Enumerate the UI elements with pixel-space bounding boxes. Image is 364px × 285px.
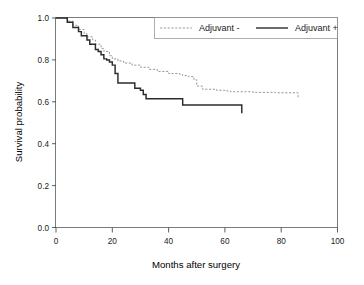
x-tick-label: 60 — [220, 237, 230, 246]
x-tick-label: 20 — [108, 237, 118, 246]
y-axis-title: Survival probability — [13, 82, 24, 163]
survival-chart-figure: Adjuvant - Adjuvant + 0.00.20.40.60.81.0… — [0, 0, 364, 285]
legend-label-adjuvant-positive: Adjuvant + — [295, 23, 338, 33]
y-tick-label: 1.0 — [38, 14, 50, 23]
y-tick-label: 0.0 — [38, 224, 50, 233]
y-tick-label: 0.2 — [38, 182, 50, 191]
x-tick-label: 100 — [331, 237, 345, 246]
x-tick-label: 0 — [54, 237, 59, 246]
x-tick-label: 80 — [277, 237, 287, 246]
y-tick-label: 0.8 — [38, 56, 50, 65]
x-axis-title: Months after surgery — [152, 259, 240, 270]
x-tick-label: 40 — [164, 237, 174, 246]
kaplan-meier-plot: Adjuvant - Adjuvant + 0.00.20.40.60.81.0… — [0, 0, 364, 285]
legend-label-adjuvant-negative: Adjuvant - — [199, 23, 240, 33]
y-tick-label: 0.4 — [38, 140, 50, 149]
y-tick-label: 0.6 — [38, 98, 50, 107]
